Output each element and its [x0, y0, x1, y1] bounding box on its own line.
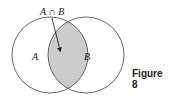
set-b-label: B — [84, 51, 90, 62]
set-a-label: A — [31, 51, 39, 62]
figure-caption: Figure 8 — [132, 68, 170, 90]
intersection-label: A ∩ B — [39, 6, 64, 17]
